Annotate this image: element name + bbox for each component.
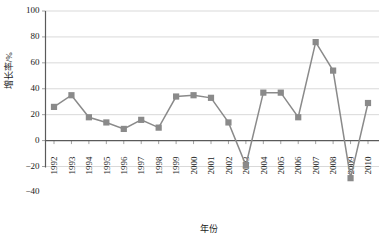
data-point-1996 — [121, 126, 127, 132]
x-tick-label-2002: 2002 — [224, 157, 234, 175]
x-tick-label-2001: 2001 — [206, 157, 216, 175]
data-point-1999 — [173, 93, 179, 99]
data-point-1998 — [156, 125, 162, 131]
data-point-2007 — [313, 39, 319, 45]
x-axis-title: 年份 — [200, 223, 218, 234]
data-point-2010 — [365, 100, 371, 106]
data-point-2000 — [190, 92, 196, 98]
y-tick-label-60: 60 — [31, 57, 41, 67]
y-tick-label-20: 20 — [31, 109, 41, 119]
data-point-2009 — [347, 175, 353, 181]
data-point-1994 — [86, 114, 92, 120]
y-tick-label-100: 100 — [26, 5, 40, 15]
data-point-1997 — [138, 117, 144, 123]
x-tick-label-1992: 1992 — [49, 157, 59, 175]
chart-canvas: 100806040200−20−40 199219931994199519961… — [0, 0, 389, 238]
y-tick-label-80: 80 — [31, 31, 41, 41]
x-tick-label-1997: 1997 — [136, 156, 146, 175]
y-tick-label--20: −20 — [25, 161, 40, 171]
data-point-1995 — [103, 119, 109, 125]
data-point-2006 — [295, 114, 301, 120]
y-tick-label--40: −40 — [25, 186, 40, 196]
x-tick-label-2000: 2000 — [189, 156, 199, 175]
x-tick-label-1996: 1996 — [119, 156, 129, 175]
data-point-2002 — [225, 119, 231, 125]
data-point-1993 — [68, 92, 74, 98]
data-point-1992 — [51, 104, 57, 110]
x-tick-label-1999: 1999 — [171, 156, 181, 175]
y-tick-label-0: 0 — [35, 135, 40, 145]
data-point-2003 — [243, 162, 249, 168]
data-point-2005 — [278, 90, 284, 96]
growth-rate-line-chart: 100806040200−20−40 199219931994199519961… — [0, 0, 389, 238]
x-tick-label-2005: 2005 — [276, 156, 286, 175]
x-tick-label-1994: 1994 — [84, 156, 94, 175]
y-tick-label-40: 40 — [31, 83, 41, 93]
x-tick-label-1998: 1998 — [154, 156, 164, 175]
chart-background — [0, 0, 389, 238]
x-tick-label-2010: 2010 — [363, 156, 373, 175]
x-tick-label-2008: 2008 — [328, 156, 338, 175]
x-tick-label-2007: 2007 — [311, 156, 321, 175]
y-axis-title: 增长率/% — [3, 52, 14, 90]
data-point-2001 — [208, 95, 214, 101]
x-tick-label-1995: 1995 — [102, 156, 112, 175]
x-tick-label-1993: 1993 — [67, 156, 77, 175]
x-tick-label-2006: 2006 — [293, 156, 303, 175]
data-point-2008 — [330, 68, 336, 74]
x-tick-label-2004: 2004 — [259, 156, 269, 175]
data-point-2004 — [260, 90, 266, 96]
